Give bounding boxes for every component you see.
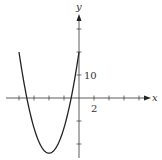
y-axis-arrow-icon bbox=[77, 14, 82, 21]
parabola-chart: x y 2 10 bbox=[0, 0, 162, 160]
axes bbox=[6, 14, 151, 158]
x-tick-label-2: 2 bbox=[91, 103, 97, 114]
y-tick-label-10: 10 bbox=[84, 70, 97, 81]
parabola-curve bbox=[19, 52, 79, 153]
x-axis-label: x bbox=[152, 92, 158, 103]
y-axis-label: y bbox=[75, 1, 82, 12]
x-axis-arrow-icon bbox=[144, 96, 151, 101]
